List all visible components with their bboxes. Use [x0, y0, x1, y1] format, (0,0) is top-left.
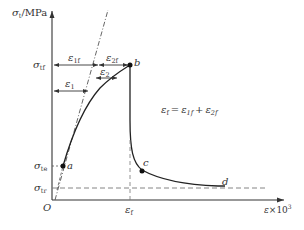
point-d-label: d — [222, 176, 228, 187]
point-c — [140, 169, 145, 174]
ascending-curve — [63, 65, 130, 166]
sigma-tf-label: σtf — [33, 59, 45, 72]
e1-label: ε1 — [65, 78, 75, 91]
strain-equation: εf=ε1f+ε2f — [161, 104, 219, 117]
e2f-label: ε2f — [106, 52, 119, 65]
sigma-te-label: σte — [34, 160, 47, 173]
x-axis-label: ε×103 — [264, 203, 292, 215]
point-b-label: b — [134, 57, 140, 68]
point-c-label: c — [143, 157, 149, 168]
ascending-curve-lower — [57, 166, 63, 190]
sigma-tr-label: σtr — [34, 182, 47, 195]
epsilon-f-label: εf — [125, 204, 133, 217]
origin-label: O — [43, 202, 51, 213]
y-axis-label: σt/MPa — [12, 7, 47, 20]
e2-label: ε2 — [100, 66, 110, 79]
e1f-label: ε1f — [68, 52, 81, 65]
point-b — [128, 63, 133, 68]
elastic-modulus-line — [55, 10, 108, 200]
stress-strain-diagram: σt/MPa σtf σte σtr O εf ε×103 a b c d ε1… — [0, 0, 304, 230]
point-a — [61, 164, 66, 169]
point-a-label: a — [67, 160, 73, 171]
